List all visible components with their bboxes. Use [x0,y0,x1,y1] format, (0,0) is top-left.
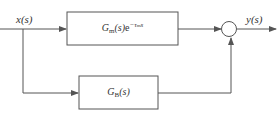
bypass-block-subscript: B [115,91,120,99]
input-label: x(s) [16,13,33,25]
output-label: y(s) [246,13,263,25]
model-block-exponent: −τms [129,21,143,29]
model-block-subscript: m [109,27,114,35]
bypass-block-label: GB(s) [79,86,158,97]
model-block-base: G [102,22,109,33]
summing-junction [222,22,237,37]
bypass-block-base: G [107,86,114,97]
model-block-arg: (s) [114,22,125,33]
model-block-label: Gm(s)e−τms [67,22,178,33]
bypass-output-line [158,38,231,93]
block-diagram-lines [0,0,278,122]
bypass-block-arg: (s) [119,86,130,97]
